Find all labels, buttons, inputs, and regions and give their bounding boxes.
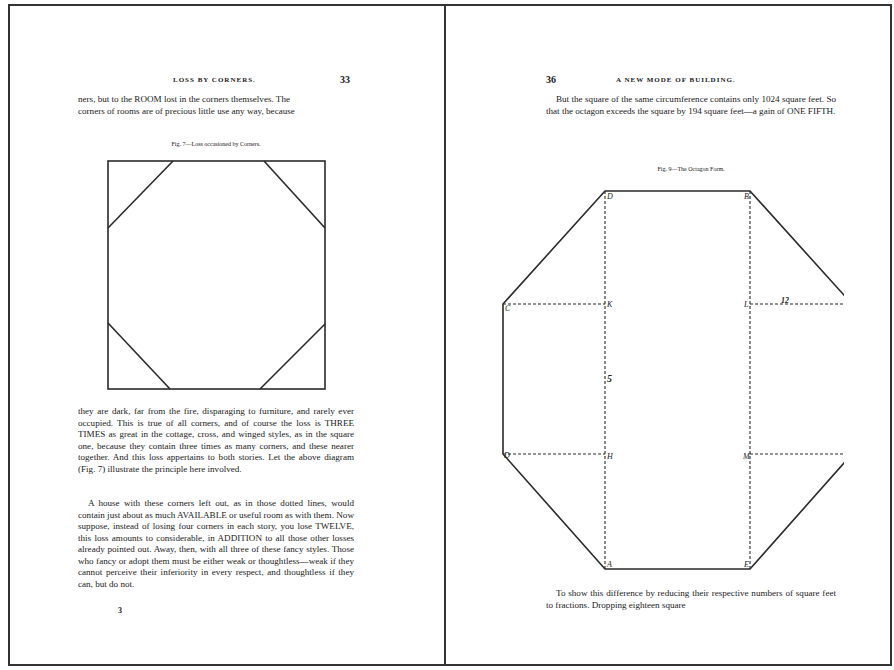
text-line: ners, but to the ROOM lost in the corner… — [78, 94, 354, 106]
body-paragraph-1: But the square of the same circumference… — [546, 94, 836, 117]
running-head: LOSS BY CORNERS. — [173, 76, 256, 84]
body-paragraph-2: To show this difference by reducing thei… — [546, 588, 836, 611]
corner-loss-diagram — [106, 156, 328, 392]
label-left-lower: D — [503, 451, 510, 460]
body-paragraph-2: A house with these corners left out, as … — [78, 498, 354, 590]
label-bottom-left: A — [606, 560, 612, 569]
page-number: 36 — [546, 74, 556, 85]
label-inner-upper-right: L — [743, 300, 749, 309]
dimension-label-vertical: 5 — [607, 373, 612, 384]
right-page: 36 A NEW MODE OF BUILDING. But the squar… — [446, 6, 890, 664]
label-top-left: D — [606, 192, 613, 201]
running-head: A NEW MODE OF BUILDING. — [616, 76, 736, 84]
label-left-upper: C — [505, 304, 511, 313]
label-inner-upper-left: K — [606, 300, 613, 309]
figure-caption: Fig. 7—Loss occasioned by Corners. — [78, 141, 354, 147]
dimension-label-upper: 12 — [781, 296, 789, 305]
label-top-right: B — [744, 192, 749, 201]
left-page: LOSS BY CORNERS. 33 ners, but to the ROO… — [10, 6, 444, 664]
body-paragraph-1: they are dark, far from the fire, dispar… — [78, 406, 354, 475]
page-number: 33 — [340, 74, 350, 85]
octagon-diagram: D B C K L 12 F 5 D H M G A E — [494, 186, 844, 576]
figure-caption: Fig. 9—The Octagon Form. — [546, 166, 836, 172]
intro-text: ners, but to the ROOM lost in the corner… — [78, 94, 354, 117]
label-inner-lower-left: H — [606, 452, 614, 461]
signature-mark: 3 — [118, 606, 122, 615]
label-inner-lower-right: M — [742, 452, 751, 461]
label-bottom-right: E — [743, 560, 749, 569]
text-line: corners of rooms are of precious little … — [78, 106, 354, 118]
